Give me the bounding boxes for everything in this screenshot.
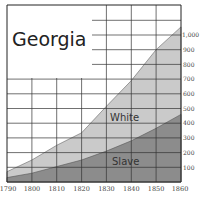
- svg-text:1860: 1860: [172, 185, 189, 193]
- svg-text:800: 800: [183, 61, 195, 68]
- svg-text:500: 500: [183, 105, 195, 112]
- georgia-population-chart: Georgia White Slave 100 200 300 400 500 …: [0, 0, 201, 197]
- svg-text:1850: 1850: [148, 185, 165, 193]
- svg-text:600: 600: [183, 90, 195, 97]
- svg-text:200: 200: [183, 149, 195, 156]
- white-series-label: White: [110, 112, 139, 123]
- svg-text:1830: 1830: [98, 185, 115, 193]
- x-axis-labels: 1790 1800 1810 1820 1830 1840 1850 1860: [0, 185, 188, 193]
- svg-text:1790: 1790: [0, 185, 16, 193]
- svg-text:400: 400: [183, 119, 195, 126]
- svg-text:1810: 1810: [48, 185, 65, 193]
- svg-text:1840: 1840: [123, 185, 140, 193]
- svg-text:1820: 1820: [73, 185, 90, 193]
- svg-text:700: 700: [183, 75, 195, 82]
- svg-text:100: 100: [183, 164, 195, 171]
- y-axis-labels: 100 200 300 400 500 600 700 800 900 1,00…: [182, 31, 199, 170]
- svg-text:900: 900: [183, 46, 195, 53]
- svg-text:300: 300: [183, 134, 195, 141]
- chart-title: Georgia: [12, 28, 87, 50]
- slave-series-label: Slave: [112, 156, 139, 167]
- svg-text:1800: 1800: [24, 185, 41, 193]
- svg-text:1,000: 1,000: [182, 31, 199, 38]
